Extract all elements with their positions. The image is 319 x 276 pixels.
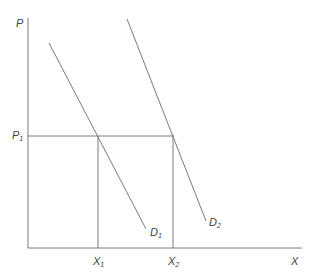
price-label-p1: P1 [12,130,23,142]
x-axis-label: X [291,256,298,267]
quantity-label-x1: X1 [93,256,104,268]
demand-curve-d2-label: D2 [209,217,221,229]
y-axis-label: P [16,18,23,29]
quantity-label-x2: X2 [168,256,179,268]
demand-curve-d2 [127,19,206,221]
demand-curve-d1-label: D1 [150,227,162,239]
